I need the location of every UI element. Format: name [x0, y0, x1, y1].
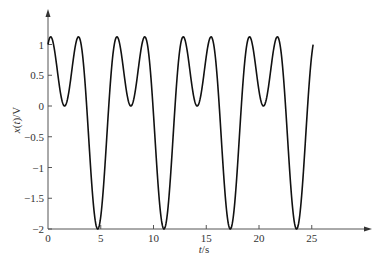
- y-tick-label: −0.5: [24, 131, 44, 143]
- x-tick-label: 10: [148, 232, 160, 244]
- y-tick-label: 1: [39, 39, 45, 51]
- y-tick-label: −2: [32, 223, 44, 235]
- x-tick-label: 0: [45, 232, 51, 244]
- y-axis-label: x(t)/V: [10, 107, 23, 134]
- y-tick-label: 0: [39, 100, 45, 112]
- line-chart: 10.50−0.5−1−1.5−2 0510152025 t/s x(t)/V: [0, 0, 384, 266]
- x-axis-ticks: 0510152025: [45, 225, 318, 244]
- y-axis-arrow-icon: [46, 9, 51, 17]
- signal-curve: [48, 37, 313, 229]
- y-tick-label: 0.5: [30, 69, 44, 81]
- x-tick-label: 20: [254, 232, 266, 244]
- x-axis-label: t/s: [199, 243, 209, 255]
- x-tick-label: 25: [306, 232, 318, 244]
- y-tick-label: −1.5: [24, 192, 44, 204]
- x-tick-label: 5: [98, 232, 104, 244]
- y-tick-label: −1: [32, 162, 44, 174]
- x-axis-arrow-icon: [364, 227, 372, 232]
